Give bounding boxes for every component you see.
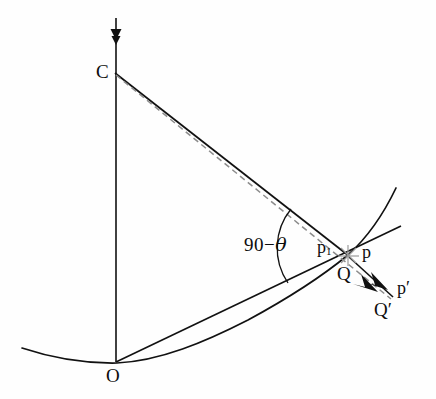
theta-symbol: θ [275, 233, 287, 255]
label-p-one: p1 [317, 238, 332, 257]
angle-prefix-text: 90− [244, 234, 275, 255]
label-point-c: C [96, 62, 109, 81]
label-p-one-subscript: 1 [326, 245, 332, 257]
diagram-canvas: C O 90−θ p1 p Q p′ Q′ [0, 0, 436, 399]
label-p: p [362, 243, 371, 261]
label-point-q: Q [337, 264, 351, 283]
label-p-prime: p′ [397, 279, 410, 297]
chord-line-c-q [115, 73, 349, 256]
axis-down-arrow-icon [111, 29, 122, 45]
label-angle-90-minus-theta: 90−θ [244, 235, 287, 254]
label-point-o: O [106, 366, 120, 385]
label-point-q-prime: Q′ [374, 300, 392, 319]
label-p-one-base: p [317, 237, 326, 257]
diagram-vector-layer [0, 0, 436, 399]
